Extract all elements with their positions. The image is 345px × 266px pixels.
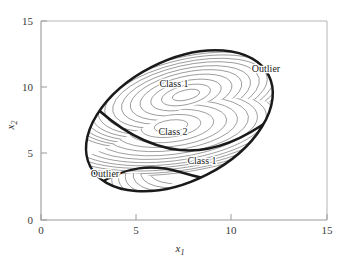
y-axis-ticks [41, 21, 47, 220]
svg-text:x2: x2 [4, 121, 19, 131]
y-axis-tick-labels: 0 5 10 15 [22, 15, 34, 226]
contour-plot-svg: 0 5 10 15 0 5 10 15 x1 x2 [0, 0, 345, 266]
label-class1-upper: Class 1 [159, 78, 188, 89]
y-tick-label-10: 10 [22, 81, 34, 93]
figure-container: 0 5 10 15 0 5 10 15 x1 x2 [0, 0, 345, 266]
svg-text:x1: x1 [175, 242, 185, 257]
x-tick-label-10: 10 [226, 224, 238, 236]
label-class2-middle: Class 2 [158, 126, 187, 137]
y-tick-label-0: 0 [28, 214, 34, 226]
x-axis-title-subscript: 1 [180, 248, 184, 257]
x-axis-title: x1 [175, 242, 185, 257]
y-axis-title: x2 [4, 121, 19, 131]
x-tick-label-15: 15 [322, 224, 334, 236]
x-axis-ticks [41, 214, 327, 220]
label-class1-lower: Class 1 [187, 155, 216, 166]
label-outlier-upper-right: Outlier [252, 63, 281, 74]
label-outlier-lower-left: Outlier [91, 168, 120, 179]
class1-upper-contours [59, 22, 312, 167]
x-axis-tick-labels: 0 5 10 15 [38, 224, 333, 236]
x-tick-label-0: 0 [38, 224, 44, 236]
y-tick-label-5: 5 [28, 147, 34, 159]
y-tick-label-15: 15 [22, 15, 34, 27]
x-tick-label-5: 5 [133, 224, 139, 236]
outer-decision-boundary-ellipse [63, 21, 296, 220]
y-axis-title-subscript: 2 [10, 121, 19, 125]
